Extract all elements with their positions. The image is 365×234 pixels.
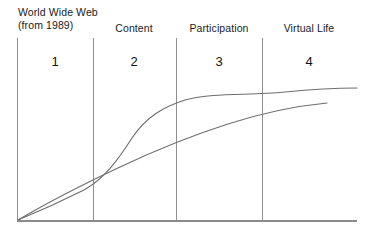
phase-title-content: Content xyxy=(115,22,152,35)
diagram-canvas xyxy=(0,0,365,234)
curve-s-shaped xyxy=(18,88,357,220)
corner-label-line2: (from 1989) xyxy=(18,19,98,32)
phase-number-3: 3 xyxy=(215,54,222,69)
phase-title-participation: Participation xyxy=(189,22,248,35)
corner-label-line1: World Wide Web xyxy=(18,6,98,19)
corner-label: World Wide Web (from 1989) xyxy=(18,6,98,32)
phase-title-virtual-life: Virtual Life xyxy=(284,22,335,35)
phase-number-1: 1 xyxy=(51,54,58,69)
phase-number-2: 2 xyxy=(130,54,137,69)
curve-linear xyxy=(18,103,327,220)
web-evolution-diagram: World Wide Web (from 1989) Content Parti… xyxy=(0,0,365,234)
phase-number-4: 4 xyxy=(305,54,312,69)
